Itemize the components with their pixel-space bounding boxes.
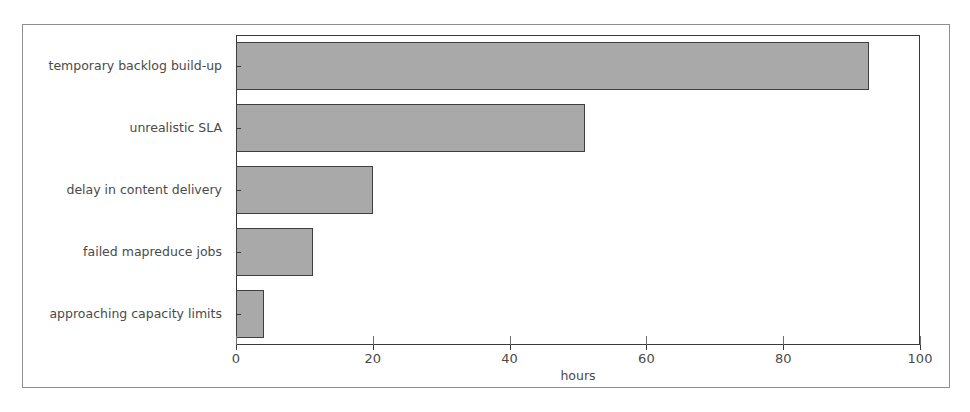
x-axis-tick-mark xyxy=(236,345,237,350)
y-axis-tick-mark xyxy=(236,252,241,253)
y-axis-tick-label: approaching capacity limits xyxy=(49,307,222,321)
x-axis-tick-mark-inner xyxy=(510,336,511,345)
x-axis-tick-label: 40 xyxy=(501,351,518,366)
x-axis-tick-mark xyxy=(510,345,511,350)
y-axis-tick-mark xyxy=(236,128,241,129)
x-axis-tick-label: 20 xyxy=(365,351,382,366)
y-axis-tick-labels: temporary backlog build-upunrealistic SL… xyxy=(0,35,230,345)
x-axis-tick-label: 100 xyxy=(908,351,933,366)
bar-series xyxy=(236,35,920,345)
x-axis-tick-mark-inner xyxy=(646,336,647,345)
y-axis-tick-label: temporary backlog build-up xyxy=(49,59,223,73)
x-axis-tick-mark xyxy=(783,345,784,350)
bar xyxy=(236,42,869,90)
x-axis-tick-label: 60 xyxy=(638,351,655,366)
y-axis-tick-label: unrealistic SLA xyxy=(130,121,222,135)
x-axis-title: hours xyxy=(236,368,920,383)
figure: temporary backlog build-upunrealistic SL… xyxy=(0,0,970,412)
x-axis-tick-mark-inner xyxy=(236,336,237,345)
x-axis-tick-mark-inner xyxy=(783,336,784,345)
y-axis-tick-label: failed mapreduce jobs xyxy=(83,245,222,259)
x-axis-tick-mark-inner xyxy=(920,336,921,345)
bar xyxy=(236,104,585,152)
bar xyxy=(236,166,373,214)
x-axis-tick-mark xyxy=(920,345,921,350)
y-axis-tick-mark xyxy=(236,66,241,67)
y-axis-tick-mark xyxy=(236,190,241,191)
x-axis-tick-mark-inner xyxy=(373,336,374,345)
bar xyxy=(236,228,313,276)
y-axis-tick-mark xyxy=(236,314,241,315)
x-axis-tick-label: 80 xyxy=(775,351,792,366)
x-axis-tick-mark xyxy=(373,345,374,350)
x-axis-tick-mark xyxy=(646,345,647,350)
y-axis-tick-label: delay in content delivery xyxy=(66,183,222,197)
x-axis-tick-label: 0 xyxy=(232,351,240,366)
